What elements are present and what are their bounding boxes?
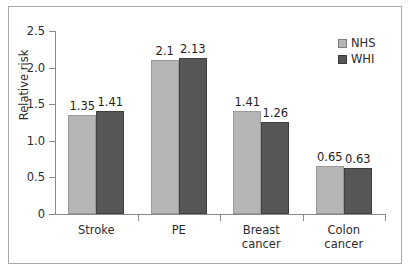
category-label-line: cancer <box>220 238 303 252</box>
category-label-line: Breast <box>220 224 303 238</box>
x-axis-tick <box>220 215 221 221</box>
bar-whi-1 <box>179 58 207 214</box>
bar-whi-2 <box>261 122 289 214</box>
category-label-0: Stroke <box>55 224 138 238</box>
category-label-line: Colon <box>303 224 386 238</box>
y-axis-tick-label: 2.0 <box>27 63 45 74</box>
legend-label: WHI <box>351 54 374 65</box>
bar-nhs-2 <box>233 111 261 214</box>
bar-value-label: 1.41 <box>94 97 126 108</box>
legend-item-nhs: NHS <box>338 36 376 50</box>
category-label-line: Stroke <box>55 224 138 238</box>
bar-value-label: 1.26 <box>259 108 291 119</box>
bar-value-label: 2.13 <box>177 44 209 55</box>
y-axis-tick <box>49 214 55 215</box>
bar-nhs-3 <box>316 166 344 214</box>
category-label-2: Breastcancer <box>220 224 303 251</box>
x-axis-tick <box>138 215 139 221</box>
category-label-line: cancer <box>303 238 386 252</box>
y-axis-tick-label: 0 <box>38 209 45 220</box>
bar-value-label: 0.63 <box>342 154 374 165</box>
x-axis-tick <box>385 215 386 221</box>
legend-item-whi: WHI <box>338 52 376 66</box>
bar-nhs-0 <box>68 115 96 214</box>
y-axis-tick-label: 0.5 <box>27 172 45 183</box>
bar-whi-3 <box>344 168 372 214</box>
legend-label: NHS <box>351 38 376 49</box>
legend-swatch-nhs <box>338 39 347 48</box>
y-axis-title: Relative risk <box>17 30 31 140</box>
figure: Relative risk 00.51.01.52.02.5 1.351.412… <box>0 0 411 274</box>
legend-swatch-whi <box>338 55 347 64</box>
bar-whi-0 <box>96 111 124 214</box>
category-label-1: PE <box>138 224 221 238</box>
y-axis-tick-label: 2.5 <box>27 26 45 37</box>
legend: NHSWHI <box>338 36 376 68</box>
plot-area: 1.351.412.12.131.411.260.650.63 <box>55 31 385 214</box>
bar-nhs-1 <box>151 60 179 214</box>
y-axis-tick-label: 1.5 <box>27 99 45 110</box>
category-label-line: PE <box>138 224 221 238</box>
y-axis-tick-label: 1.0 <box>27 136 45 147</box>
bar-value-label: 1.41 <box>231 97 263 108</box>
category-label-3: Coloncancer <box>303 224 386 251</box>
x-axis-tick <box>303 215 304 221</box>
